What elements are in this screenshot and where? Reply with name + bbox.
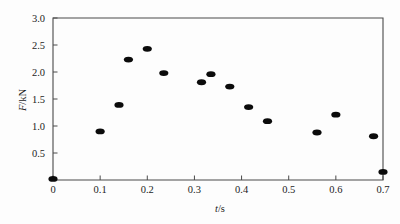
data-point [197,79,206,85]
data-point [124,57,133,63]
x-axis-tick-labels: 00.10.20.30.40.50.60.7 [50,184,389,195]
data-point [331,112,340,118]
data-point [244,104,253,110]
data-point [263,118,272,124]
y-tick-label: 2.0 [32,67,45,78]
y-tick-label: 1.5 [32,94,45,105]
x-tick-label: 0.2 [141,184,154,195]
x-tick-label: 0.1 [94,184,107,195]
data-point-series [48,46,387,182]
data-point [206,71,215,77]
axis-frame [53,18,383,180]
y-tick-label: 0.5 [32,148,45,159]
x-axis-title: t/s [215,203,225,214]
x-tick-label: 0.5 [282,184,295,195]
x-tick-label: 0.7 [376,184,389,195]
x-tick-label: 0 [50,184,55,195]
data-point [114,102,123,108]
data-point [369,133,378,139]
plot-frame [53,18,383,180]
y-tick-label: 3.0 [32,13,45,24]
y-axis-tick-labels: 0.51.01.52.02.53.0 [32,13,45,159]
x-tick-label: 0.3 [188,184,201,195]
chart-figure: 00.10.20.30.40.50.60.7 0.51.01.52.02.53.… [0,0,400,224]
data-point [159,70,168,76]
y-axis-ticks [53,18,58,153]
data-point [143,46,152,52]
y-axis-title: F/kN [17,88,28,112]
y-tick-label: 2.5 [32,40,45,51]
x-tick-label: 0.4 [235,184,249,195]
data-point [378,169,387,175]
scatter-plot: 00.10.20.30.40.50.60.7 0.51.01.52.02.53.… [0,0,400,224]
x-tick-label: 0.6 [329,184,342,195]
x-axis-ticks [53,176,383,181]
y-tick-label: 1.0 [32,121,45,132]
data-point [48,176,57,182]
data-point [225,84,234,90]
data-point [312,130,321,136]
data-point [96,129,105,135]
